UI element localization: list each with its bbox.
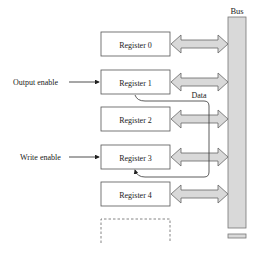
bus: Bus [228, 6, 246, 238]
register-0: Register 0 [101, 32, 170, 56]
double-arrow-icon [171, 148, 228, 166]
register-4: Register 4 [101, 182, 170, 206]
double-arrow-icon [171, 110, 228, 128]
bus-label: Bus [230, 6, 243, 16]
register-1: Register 1 [101, 70, 170, 94]
register-bus-diagram: Bus Register 0 Register 1 Register 2 Reg… [0, 0, 263, 253]
register-label: Register 1 [119, 79, 152, 88]
bus-bar [228, 17, 246, 228]
register-label: Register 4 [119, 191, 152, 200]
output-enable-label: Output enable [13, 78, 59, 87]
register-label: Register 3 [119, 154, 152, 163]
write-enable-label: Write enable [20, 153, 61, 162]
double-arrow-icon [171, 35, 228, 53]
output-enable-signal: Output enable [13, 78, 99, 87]
write-enable-signal: Write enable [20, 153, 99, 162]
bus-arrows [171, 35, 228, 203]
dashed-register-placeholder [101, 219, 170, 243]
register-label: Register 2 [119, 116, 152, 125]
data-label: Data [191, 91, 207, 100]
register-2: Register 2 [101, 107, 170, 131]
double-arrow-icon [171, 73, 228, 91]
register-label: Register 0 [119, 41, 152, 50]
register-3: Register 3 [101, 145, 170, 169]
double-arrow-icon [171, 185, 228, 203]
bus-continuation-stub [228, 234, 246, 238]
